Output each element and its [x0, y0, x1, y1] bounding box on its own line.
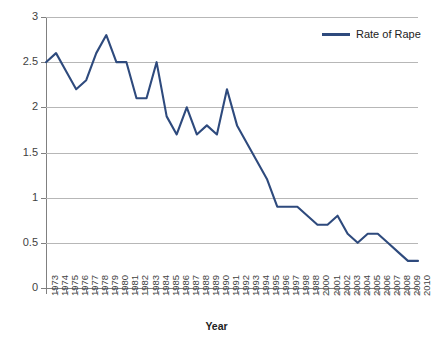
- x-axis-tick: [126, 289, 127, 294]
- x-axis-tick: [46, 289, 47, 294]
- x-axis-tick: [328, 289, 329, 294]
- x-axis-tick: [348, 289, 349, 294]
- y-axis-tick-label: 3: [0, 11, 38, 22]
- x-axis-tick: [257, 289, 258, 294]
- x-axis-tick: [277, 289, 278, 294]
- x-axis-tick: [317, 289, 318, 294]
- x-axis-tick: [116, 289, 117, 294]
- x-axis-tick: [86, 289, 87, 294]
- x-axis-tick: [66, 289, 67, 294]
- x-axis-title: Year: [0, 320, 433, 332]
- x-axis-tick: [96, 289, 97, 294]
- x-axis-tick: [418, 289, 419, 294]
- x-axis-tick: [307, 289, 308, 294]
- x-axis-tick: [217, 289, 218, 294]
- y-axis-tick-label: 0: [0, 282, 38, 293]
- y-axis-tick-label: 2.5: [0, 56, 38, 67]
- x-axis-tick: [408, 289, 409, 294]
- x-axis-tick: [267, 289, 268, 294]
- chart-container: 00.511.522.53 19731974197519761977197819…: [0, 0, 433, 339]
- x-axis-tick: [388, 289, 389, 294]
- x-axis-tick: [106, 289, 107, 294]
- x-axis-tick: [287, 289, 288, 294]
- legend-swatch-rate-of-rape: [322, 33, 350, 36]
- x-axis-tick: [227, 289, 228, 294]
- x-axis-tick: [378, 289, 379, 294]
- x-axis-tick: [358, 289, 359, 294]
- x-axis-tick: [56, 289, 57, 294]
- x-axis-tick: [136, 289, 137, 294]
- x-axis-tick-label: 2010: [422, 275, 432, 296]
- x-axis-tick: [157, 289, 158, 294]
- x-axis-tick: [338, 289, 339, 294]
- x-axis-tick: [247, 289, 248, 294]
- x-axis-tick: [297, 289, 298, 294]
- x-axis-tick: [207, 289, 208, 294]
- x-axis-tick: [147, 289, 148, 294]
- x-axis-tick: [187, 289, 188, 294]
- x-axis-tick: [177, 289, 178, 294]
- x-axis-tick: [398, 289, 399, 294]
- legend: Rate of Rape: [322, 29, 421, 40]
- x-axis-tick: [167, 289, 168, 294]
- x-axis-tick: [197, 289, 198, 294]
- plot-area: [46, 17, 418, 288]
- y-axis-tick-label: 1.5: [0, 147, 38, 158]
- series-line-rate-of-rape: [46, 17, 418, 288]
- y-axis-tick-label: 1: [0, 192, 38, 203]
- x-axis-tick: [76, 289, 77, 294]
- y-axis-tick-label: 0.5: [0, 237, 38, 248]
- x-axis-tick: [237, 289, 238, 294]
- x-axis-tick: [368, 289, 369, 294]
- legend-label-rate-of-rape: Rate of Rape: [356, 29, 421, 40]
- y-axis-tick-label: 2: [0, 101, 38, 112]
